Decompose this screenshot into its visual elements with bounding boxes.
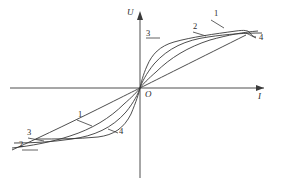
curve-label-upper-4: 4 (259, 33, 263, 42)
curve-2 (12, 31, 258, 148)
iv-characteristic-figure: U I O 1 2 3 4 1 2 3 4 (0, 0, 281, 188)
axis-label-i: I (258, 92, 261, 101)
origin-label: O (145, 90, 152, 99)
curve-label-upper-2: 2 (193, 22, 197, 31)
plot-canvas (0, 0, 281, 188)
leader-lower-1 (77, 120, 92, 126)
curve-label-upper-3: 3 (146, 29, 150, 38)
leader-upper-2 (193, 32, 206, 36)
axis-label-u: U (127, 8, 134, 17)
leader-upper-1 (211, 20, 224, 28)
vertical-axis-arrowhead (137, 11, 143, 20)
curve-label-lower-2: 2 (19, 140, 23, 149)
curve-label-lower-4: 4 (119, 127, 123, 136)
curve-label-lower-1: 1 (78, 110, 82, 119)
curve-label-upper-1: 1 (214, 9, 218, 18)
curve-label-lower-3: 3 (27, 128, 31, 137)
curve-1 (12, 35, 246, 150)
